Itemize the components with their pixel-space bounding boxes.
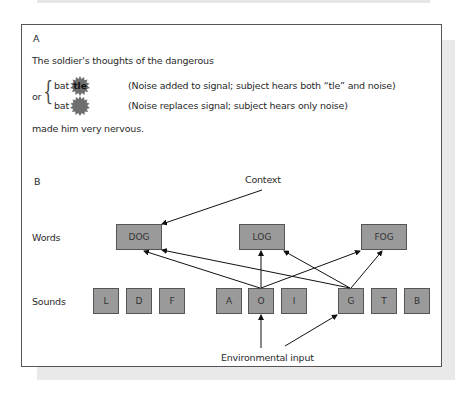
connection-arrows bbox=[0, 0, 455, 396]
arrow-context-to-dog bbox=[162, 190, 262, 224]
arrow-o-to-dog bbox=[144, 251, 260, 288]
arrow-o-to-fog bbox=[261, 251, 360, 288]
arrow-g-to-fog bbox=[351, 251, 382, 288]
arrow-g-to-log bbox=[284, 251, 350, 288]
arrow-input-to-g bbox=[285, 315, 337, 346]
arrow-g-to-dog bbox=[162, 250, 350, 288]
